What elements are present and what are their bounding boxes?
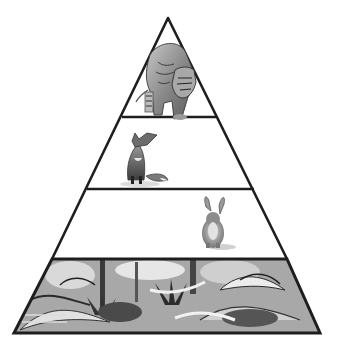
- rabbit-illustration: [202, 197, 236, 250]
- fox-illustration: [120, 133, 168, 187]
- tier-producers: [10, 259, 330, 339]
- tier-primary-consumer: [202, 197, 236, 250]
- tiger-illustration: [136, 43, 196, 120]
- tier-apex-predator: [136, 43, 196, 120]
- tier-secondary-consumer: [120, 133, 168, 187]
- food-pyramid-diagram: [0, 0, 338, 352]
- jungle-vegetation-illustration: [10, 259, 330, 339]
- tier-dividers: [87, 117, 254, 189]
